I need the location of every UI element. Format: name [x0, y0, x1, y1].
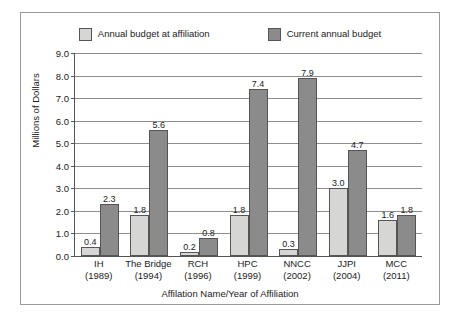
y-axis-tick-label: 8.0 — [56, 70, 69, 81]
y-axis-tick-mark — [71, 256, 75, 257]
bar: 1.8 — [230, 215, 249, 256]
bar: 2.3 — [100, 204, 119, 256]
legend-swatch-dark-gray-icon — [268, 28, 281, 41]
y-axis-tick-label: 5.0 — [56, 138, 69, 149]
bar: 1.6 — [378, 220, 397, 256]
bar-value-label: 0.3 — [282, 240, 295, 249]
bar: 7.9 — [298, 78, 317, 256]
x-axis-category-name: The Bridge — [124, 258, 174, 270]
x-axis-category-year: (1989) — [74, 270, 124, 282]
bar-value-label: 7.9 — [301, 69, 314, 78]
bar-value-label: 1.8 — [233, 206, 246, 215]
bar-group: 1.87.4 — [224, 53, 274, 256]
y-axis-tick-label: 1.0 — [56, 228, 69, 239]
bar-group: 0.42.3 — [75, 53, 125, 256]
x-axis-category-name: MCC — [371, 258, 421, 270]
bar: 1.8 — [397, 215, 416, 256]
bar-group: 0.20.8 — [174, 53, 224, 256]
legend-swatch-light-gray-icon — [79, 28, 92, 41]
x-axis-category-labels: IH(1989)The Bridge(1994)RCH(1996)HPC(199… — [74, 258, 421, 282]
bar-value-label: 5.6 — [153, 121, 166, 130]
bar-group: 3.04.7 — [323, 53, 373, 256]
y-axis-tick-label: 0.0 — [56, 251, 69, 262]
x-axis-category-label: The Bridge(1994) — [124, 258, 174, 282]
bar-group: 0.37.9 — [273, 53, 323, 256]
y-axis-tick-label: 9.0 — [56, 48, 69, 59]
x-axis-category-label: MCC(2011) — [371, 258, 421, 282]
bar: 5.6 — [149, 130, 168, 256]
x-axis-category-year: (1999) — [223, 270, 273, 282]
y-axis-tick-label: 6.0 — [56, 115, 69, 126]
x-axis-category-name: RCH — [173, 258, 223, 270]
bar: 0.8 — [199, 238, 218, 256]
legend-label-current-annual-budget: Current annual budget — [287, 29, 382, 39]
chart-legend: Annual budget at affiliation Current ann… — [21, 23, 439, 45]
bar-value-label: 1.6 — [381, 211, 394, 220]
x-axis-category-name: JJPI — [322, 258, 372, 270]
x-axis-category-year: (1996) — [173, 270, 223, 282]
x-axis-title: Affilation Name/Year of Affiliation — [21, 288, 439, 299]
x-axis-category-label: IH(1989) — [74, 258, 124, 282]
y-axis-tick-label: 4.0 — [56, 160, 69, 171]
bar-value-label: 1.8 — [400, 206, 413, 215]
x-axis-category-year: (2002) — [272, 270, 322, 282]
x-axis-category-label: NNCC(2002) — [272, 258, 322, 282]
chart-figure: Annual budget at affiliation Current ann… — [20, 12, 440, 305]
bar: 4.7 — [348, 150, 367, 256]
x-axis-category-name: HPC — [223, 258, 273, 270]
bar-value-label: 3.0 — [332, 179, 345, 188]
bar-value-label: 2.3 — [103, 195, 116, 204]
bar-value-label: 4.7 — [351, 141, 364, 150]
x-axis-category-year: (1994) — [124, 270, 174, 282]
bar: 0.2 — [180, 252, 199, 257]
x-axis-category-label: JJPI(2004) — [322, 258, 372, 282]
y-axis-tick-label: 2.0 — [56, 205, 69, 216]
bar-value-label: 0.8 — [202, 229, 215, 238]
y-axis-tick-label: 7.0 — [56, 93, 69, 104]
bar-value-label: 1.8 — [134, 206, 147, 215]
legend-entry-current-annual-budget: Current annual budget — [268, 28, 382, 41]
bar-group: 1.85.6 — [125, 53, 175, 256]
x-axis-category-name: NNCC — [272, 258, 322, 270]
bar: 1.8 — [130, 215, 149, 256]
plot-area: 9.08.07.06.05.04.03.02.01.00.0 0.42.31.8… — [74, 53, 422, 257]
legend-entry-annual-budget-at-affiliation: Annual budget at affiliation — [79, 28, 210, 41]
bar: 3.0 — [329, 188, 348, 256]
x-axis-category-year: (2011) — [371, 270, 421, 282]
x-axis-category-name: IH — [74, 258, 124, 270]
bar-groups: 0.42.31.85.60.20.81.87.40.37.93.04.71.61… — [75, 53, 422, 256]
x-axis-category-year: (2004) — [322, 270, 372, 282]
bar-value-label: 7.4 — [252, 80, 265, 89]
x-axis-category-label: RCH(1996) — [173, 258, 223, 282]
y-axis-title: Millions of Dollars — [30, 51, 41, 171]
bar: 0.3 — [279, 249, 298, 256]
bar: 7.4 — [249, 89, 268, 256]
bar-group: 1.61.8 — [372, 53, 422, 256]
legend-label-annual-budget-at-affiliation: Annual budget at affiliation — [98, 29, 210, 39]
bar-value-label: 0.4 — [84, 238, 97, 247]
y-axis-tick-label: 3.0 — [56, 183, 69, 194]
x-axis-category-label: HPC(1999) — [223, 258, 273, 282]
bar-value-label: 0.2 — [183, 243, 196, 252]
bar: 0.4 — [81, 247, 100, 256]
